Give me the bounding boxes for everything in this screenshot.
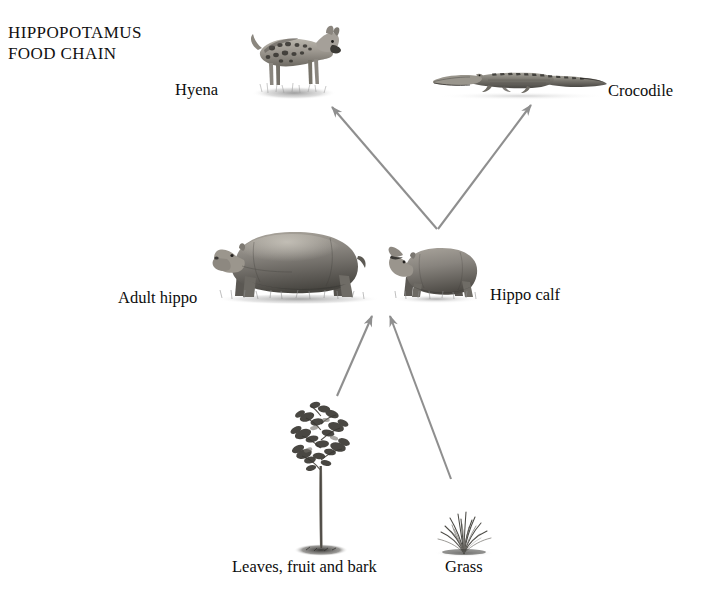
label-grass: Grass: [445, 557, 483, 577]
adult-hippo-illustration: [212, 222, 384, 306]
hippo-calf-illustration: [386, 234, 482, 306]
tree-illustration: [286, 400, 356, 558]
hyena-illustration: [246, 20, 342, 100]
arrow-calf-to-hyena: [332, 107, 437, 229]
label-adult-hippo: Adult hippo: [118, 288, 197, 308]
label-leaves-fruit-and-bark: Leaves, fruit and bark: [232, 557, 377, 577]
arrow-calf-to-crocodile: [438, 105, 531, 229]
arrow-leaves-to-adult-hippo: [337, 316, 372, 396]
label-hyena: Hyena: [175, 80, 218, 100]
food-chain-diagram: HIPPOPOTAMUS FOOD CHAIN: [0, 0, 710, 600]
label-crocodile: Crocodile: [608, 81, 673, 101]
page-title: HIPPOPOTAMUS FOOD CHAIN: [8, 22, 142, 65]
crocodile-illustration: [430, 60, 610, 102]
arrow-grass-to-hippo-calf: [390, 316, 451, 479]
label-hippo-calf: Hippo calf: [490, 285, 560, 305]
grass-illustration: [428, 500, 502, 558]
